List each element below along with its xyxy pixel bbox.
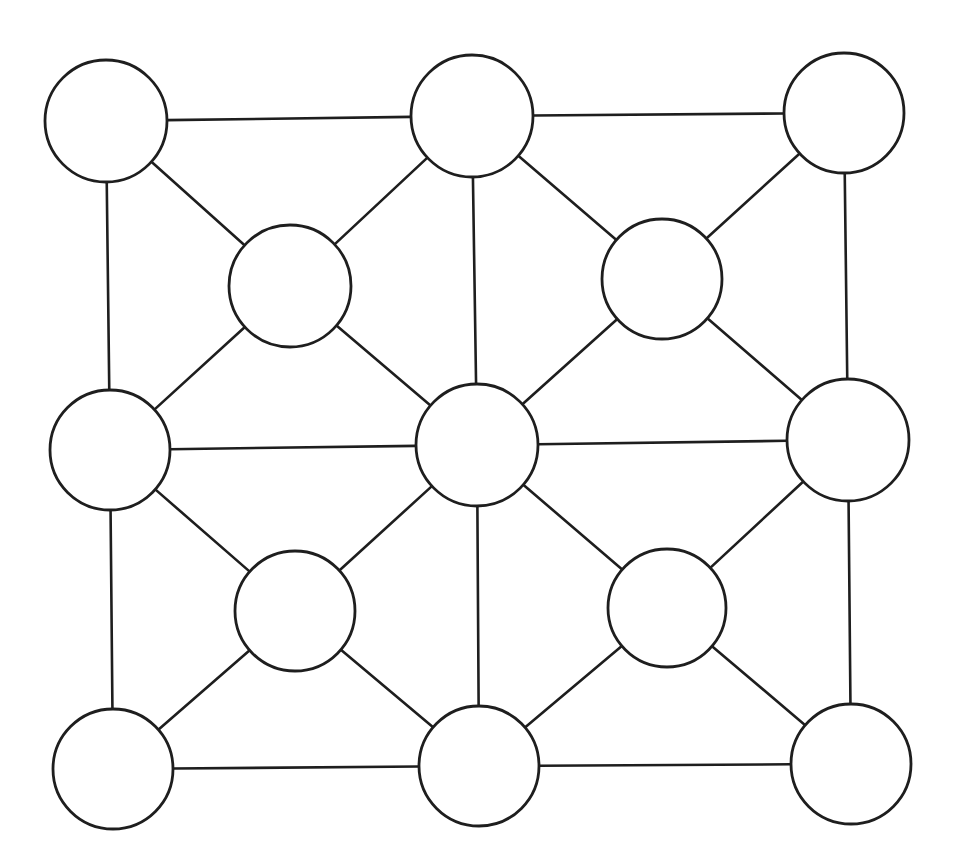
edge-ur-mm bbox=[522, 319, 617, 404]
edge-lr-br bbox=[712, 646, 805, 725]
edge-ll-bl bbox=[158, 650, 249, 729]
edge-mm-mr bbox=[538, 441, 787, 444]
edge-bm-br bbox=[539, 764, 791, 765]
edge-ll-ml bbox=[155, 489, 249, 571]
edge-lr-mr bbox=[710, 481, 803, 567]
edge-ul-mm bbox=[336, 326, 430, 406]
edge-tl-ml bbox=[107, 182, 110, 390]
edge-tr-mr bbox=[845, 173, 848, 379]
node-bl bbox=[53, 709, 173, 829]
graph-diagram bbox=[0, 0, 960, 865]
node-mm bbox=[416, 384, 538, 506]
node-ul bbox=[229, 225, 351, 347]
edge-lr-mm bbox=[523, 485, 622, 570]
node-tl bbox=[45, 60, 167, 182]
node-mr bbox=[787, 379, 909, 501]
node-bm bbox=[419, 706, 539, 826]
edge-ll-mm bbox=[339, 486, 432, 570]
edge-tl-tm bbox=[167, 117, 411, 120]
edge-bl-bm bbox=[173, 766, 419, 768]
edge-ml-mm bbox=[170, 446, 416, 449]
edge-tm-mm bbox=[473, 177, 476, 384]
node-ur bbox=[602, 219, 722, 339]
node-tm bbox=[411, 55, 533, 177]
edge-mm-bm bbox=[477, 506, 478, 706]
node-tr bbox=[784, 53, 904, 173]
edge-ul-tm bbox=[335, 158, 428, 245]
node-ml bbox=[50, 390, 170, 510]
edge-ul-ml bbox=[154, 327, 245, 410]
edge-ll-bm bbox=[341, 650, 433, 728]
edge-ur-tm bbox=[518, 156, 616, 240]
edge-ur-tr bbox=[706, 153, 799, 238]
edge-tm-tr bbox=[533, 113, 784, 115]
node-ll bbox=[235, 551, 355, 671]
edge-ul-tl bbox=[151, 162, 244, 246]
edge-mr-br bbox=[849, 501, 851, 704]
edge-lr-bm bbox=[525, 646, 622, 727]
node-br bbox=[791, 704, 911, 824]
graph-canvas bbox=[0, 0, 960, 865]
node-lr bbox=[608, 549, 726, 667]
edge-ur-mr bbox=[707, 318, 802, 400]
edge-ml-bl bbox=[111, 510, 113, 709]
